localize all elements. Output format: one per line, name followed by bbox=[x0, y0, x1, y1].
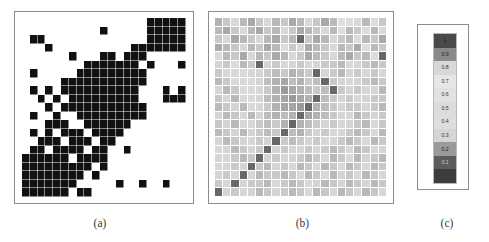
matrix-cell bbox=[362, 120, 370, 129]
panel-b: (b) bbox=[200, 0, 405, 242]
matrix-cell bbox=[305, 180, 313, 189]
matrix-cell bbox=[116, 95, 124, 104]
matrix-cell bbox=[346, 188, 354, 197]
matrix-cell bbox=[231, 35, 239, 44]
matrix-cell bbox=[338, 95, 346, 104]
matrix-cell bbox=[84, 137, 92, 146]
matrix-cell bbox=[38, 129, 46, 138]
matrix-cell bbox=[139, 86, 147, 95]
matrix-cell bbox=[338, 86, 346, 95]
matrix-cell bbox=[100, 120, 108, 129]
panel-a-caption: (a) bbox=[0, 217, 200, 229]
matrix-cell bbox=[281, 18, 289, 27]
matrix-cell bbox=[53, 69, 61, 78]
matrix-cell bbox=[223, 86, 231, 95]
matrix-cell bbox=[231, 137, 239, 146]
matrix-cell bbox=[84, 52, 92, 61]
matrix-cell bbox=[264, 103, 272, 112]
matrix-cell bbox=[77, 35, 85, 44]
matrix-cell bbox=[108, 129, 116, 138]
matrix-cell bbox=[231, 120, 239, 129]
matrix-cell bbox=[147, 69, 155, 78]
matrix-cell bbox=[272, 95, 280, 104]
matrix-cell bbox=[338, 18, 346, 27]
matrix-cell bbox=[139, 61, 147, 70]
matrix-cell bbox=[231, 146, 239, 155]
matrix-cell bbox=[231, 103, 239, 112]
matrix-cell bbox=[264, 171, 272, 180]
matrix-cell bbox=[108, 146, 116, 155]
matrix-cell bbox=[147, 163, 155, 172]
matrix-cell bbox=[38, 18, 46, 27]
matrix-cell bbox=[256, 18, 264, 27]
matrix-cell bbox=[30, 154, 38, 163]
matrix-cell bbox=[240, 35, 248, 44]
matrix-cell bbox=[38, 103, 46, 112]
matrix-cell bbox=[231, 69, 239, 78]
matrix-cell bbox=[139, 120, 147, 129]
matrix-cell bbox=[92, 27, 100, 36]
matrix-cell bbox=[264, 27, 272, 36]
matrix-cell bbox=[330, 163, 338, 172]
matrix-cell bbox=[53, 95, 61, 104]
matrix-cell bbox=[163, 18, 171, 27]
matrix-cell bbox=[124, 52, 132, 61]
matrix-cell bbox=[116, 188, 124, 197]
matrix-cell bbox=[231, 112, 239, 121]
matrix-cell bbox=[215, 154, 223, 163]
matrix-cell bbox=[305, 61, 313, 70]
matrix-cell bbox=[305, 154, 313, 163]
matrix-cell bbox=[362, 44, 370, 53]
matrix-cell bbox=[313, 44, 321, 53]
matrix-cell bbox=[256, 188, 264, 197]
matrix-cell bbox=[338, 154, 346, 163]
matrix-cell bbox=[77, 78, 85, 87]
matrix-cell bbox=[346, 86, 354, 95]
matrix-cell bbox=[313, 129, 321, 138]
matrix-cell bbox=[178, 78, 186, 87]
matrix-cell bbox=[155, 52, 163, 61]
matrix-cell bbox=[346, 103, 354, 112]
matrix-cell bbox=[371, 129, 379, 138]
matrix-cell bbox=[223, 188, 231, 197]
matrix-cell bbox=[305, 95, 313, 104]
matrix-cell bbox=[321, 112, 329, 121]
matrix-cell bbox=[330, 69, 338, 78]
matrix-cell bbox=[100, 163, 108, 172]
matrix-cell bbox=[346, 171, 354, 180]
matrix-cell bbox=[124, 95, 132, 104]
matrix-cell bbox=[139, 112, 147, 121]
matrix-cell bbox=[147, 35, 155, 44]
matrix-cell bbox=[69, 35, 77, 44]
matrix-cell bbox=[240, 154, 248, 163]
matrix-cell bbox=[163, 163, 171, 172]
matrix-cell bbox=[305, 163, 313, 172]
matrix-cell bbox=[147, 120, 155, 129]
matrix-cell bbox=[178, 137, 186, 146]
matrix-cell bbox=[289, 154, 297, 163]
matrix-cell bbox=[108, 78, 116, 87]
matrix-cell bbox=[330, 103, 338, 112]
matrix-cell bbox=[69, 112, 77, 121]
matrix-cell bbox=[163, 112, 171, 121]
matrix-cell bbox=[147, 188, 155, 197]
matrix-cell bbox=[248, 188, 256, 197]
matrix-cell bbox=[305, 44, 313, 53]
matrix-cell bbox=[77, 154, 85, 163]
matrix-cell bbox=[264, 18, 272, 27]
matrix-cell bbox=[69, 146, 77, 155]
matrix-cell bbox=[22, 171, 30, 180]
matrix-cell bbox=[231, 188, 239, 197]
matrix-cell bbox=[69, 52, 77, 61]
matrix-cell bbox=[256, 129, 264, 138]
matrix-cell bbox=[354, 44, 362, 53]
matrix-cell bbox=[92, 35, 100, 44]
matrix-cell bbox=[53, 52, 61, 61]
matrix-cell bbox=[30, 146, 38, 155]
matrix-cell bbox=[84, 27, 92, 36]
matrix-cell bbox=[178, 35, 186, 44]
matrix-cell bbox=[354, 171, 362, 180]
matrix-cell bbox=[22, 95, 30, 104]
matrix-cell bbox=[100, 103, 108, 112]
matrix-cell bbox=[281, 103, 289, 112]
